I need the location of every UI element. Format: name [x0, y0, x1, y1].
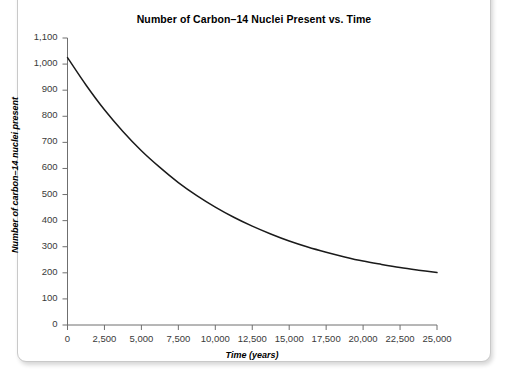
y-axis-label: Number of carbon–14 nuclei present	[10, 75, 20, 275]
x-axis-label: Time (years)	[67, 350, 437, 360]
y-tick-label: 100	[14, 292, 58, 303]
y-tick-label: 500	[14, 188, 58, 199]
y-tick-label: 1,100	[14, 31, 58, 42]
y-tick-label: 900	[14, 83, 58, 94]
figure-card: Number of Carbon–14 Nuclei Present vs. T…	[17, 0, 491, 362]
y-tick-label: 1,000	[14, 57, 58, 68]
y-tick-label: 700	[14, 135, 58, 146]
y-tick-label: 200	[14, 266, 58, 277]
y-tick-label: 300	[14, 240, 58, 251]
y-tick-label: 400	[14, 214, 58, 225]
y-tick-label: 600	[14, 161, 58, 172]
x-tick-label: 25,000	[410, 333, 464, 344]
y-tick-label: 0	[14, 318, 58, 329]
y-tick-label: 800	[14, 109, 58, 120]
chart-title: Number of Carbon–14 Nuclei Present vs. T…	[18, 13, 490, 25]
